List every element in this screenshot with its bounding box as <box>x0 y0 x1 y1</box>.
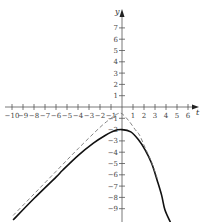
y-tick-label: −5 <box>108 160 118 168</box>
y-tick-label: −6 <box>108 171 119 179</box>
y-tick-label: 1 <box>114 92 118 100</box>
x-tick-label: −6 <box>51 112 62 120</box>
y-tick-label: 7 <box>114 24 118 32</box>
x-tick-label: −4 <box>73 112 84 120</box>
curves <box>13 113 170 222</box>
x-tick-label: −7 <box>40 112 50 120</box>
x-tick-label: 1 <box>131 112 135 120</box>
y-tick-label: −9 <box>108 205 118 213</box>
y-tick-label: 6 <box>114 36 119 44</box>
y-tick-label: 5 <box>114 47 118 55</box>
x-tick-label: 4 <box>164 112 169 120</box>
y-axis-label: y <box>114 7 120 16</box>
y-tick-label: 3 <box>114 70 118 78</box>
y-tick-label: −1 <box>108 115 118 123</box>
y-tick-label: −4 <box>108 149 119 157</box>
y-axis-arrow-icon <box>120 9 125 17</box>
tick-labels: −10−9−8−7−6−5−4−3−2−11234567654321−1−2−3… <box>5 24 191 213</box>
chart: −10−9−8−7−6−5−4−3−2−11234567654321−1−2−3… <box>0 0 202 222</box>
x-tick-label: −5 <box>62 112 72 120</box>
x-tick-label: −2 <box>95 112 105 120</box>
x-tick-label: 5 <box>175 112 179 120</box>
y-tick-label: −3 <box>108 137 118 145</box>
x-axis-label: t <box>196 108 200 117</box>
x-tick-label: −8 <box>29 112 39 120</box>
x-tick-label: 2 <box>142 112 146 120</box>
x-tick-label: −3 <box>84 112 94 120</box>
y-tick-label: −8 <box>108 194 118 202</box>
x-tick-label: −9 <box>18 112 28 120</box>
y-tick-label: 2 <box>114 81 118 89</box>
y-tick-label: −7 <box>108 183 118 191</box>
solid-curve <box>13 130 170 222</box>
x-tick-label: 3 <box>153 112 157 120</box>
y-tick-label: 4 <box>114 58 119 66</box>
x-tick-label: 6 <box>186 112 191 120</box>
dashed-curve <box>13 113 157 215</box>
